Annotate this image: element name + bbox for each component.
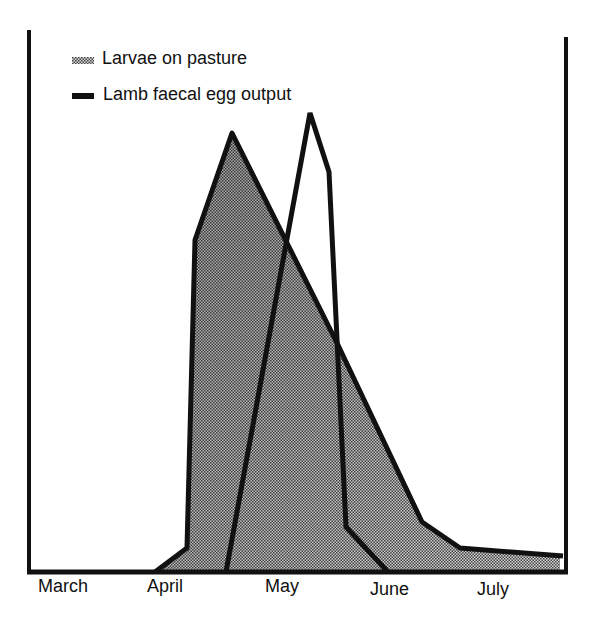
legend-label-larvae: Larvae on pasture <box>102 48 247 69</box>
x-tick-july: July <box>477 579 509 600</box>
x-tick-june: June <box>370 579 409 600</box>
x-tick-april: April <box>147 576 183 597</box>
series-larvae-on-pasture <box>155 133 563 572</box>
legend-swatch-stipple <box>72 57 94 64</box>
legend-label-lamb-egg-output: Lamb faecal egg output <box>103 84 291 105</box>
x-tick-march: March <box>38 576 88 597</box>
chart-canvas <box>0 0 592 629</box>
legend-swatch-line <box>72 93 94 99</box>
x-tick-may: May <box>265 576 299 597</box>
